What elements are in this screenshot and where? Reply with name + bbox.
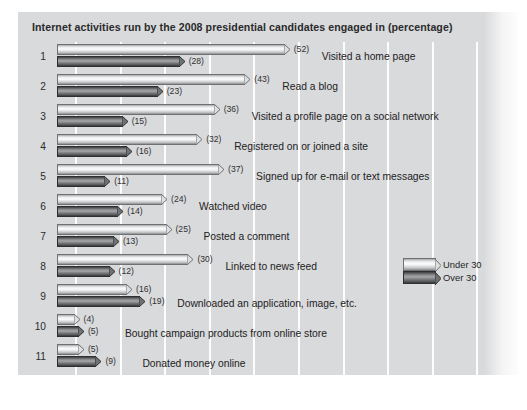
bar-end-cap	[122, 116, 128, 127]
bar-end-cap	[161, 194, 167, 205]
category-label: Downloaded an application, image, etc.	[177, 298, 357, 309]
bar-row: 9(16)(19)Downloaded an application, imag…	[18, 282, 518, 312]
row-number: 2	[18, 81, 46, 92]
bar-segment	[57, 254, 188, 265]
category-label: Registered on or joined a site	[234, 141, 368, 152]
bar-end-cap	[117, 206, 123, 217]
category-label: Signed up for e-mail or text messages	[256, 171, 429, 182]
bar-value-label: (23)	[167, 86, 182, 97]
chart-title: Internet activities run by the 2008 pres…	[32, 21, 453, 33]
legend-item: Over 30	[403, 271, 493, 284]
bar-segment	[57, 134, 197, 145]
bar-segment	[57, 194, 162, 205]
bar-segment	[57, 176, 105, 187]
bar-end-cap	[157, 86, 163, 97]
bar-value-label: (28)	[189, 56, 204, 67]
bar-value-label: (5)	[88, 344, 99, 355]
bar-segment	[57, 326, 79, 337]
bar-value-label: (19)	[149, 296, 164, 307]
bar-end-cap	[139, 296, 145, 307]
row-number: 6	[18, 201, 46, 212]
bar-end-cap	[95, 356, 101, 367]
bar-segment	[57, 206, 118, 217]
bar-segment	[57, 284, 127, 295]
row-number: 8	[18, 261, 46, 272]
row-number: 10	[18, 321, 46, 332]
bar-value-label: (25)	[176, 224, 191, 235]
bar-segment	[57, 74, 245, 85]
bar-end-cap	[244, 74, 250, 85]
bar-segment	[57, 44, 285, 55]
category-label: Read a blog	[282, 81, 338, 92]
bar-value-label: (11)	[114, 176, 129, 187]
bar-value-label: (37)	[228, 164, 243, 175]
bar-segment	[57, 116, 123, 127]
bar-end-cap	[187, 254, 193, 265]
bar-end-cap	[109, 266, 115, 277]
bar-end-cap	[126, 284, 132, 295]
bar-row: 1(52)(28)Visited a home page	[18, 42, 518, 72]
bar-segment	[57, 266, 110, 277]
chart-legend: Under 30Over 30	[403, 258, 493, 284]
category-label: Donated money online	[142, 358, 245, 369]
bar-value-label: (14)	[127, 206, 142, 217]
bar-value-label: (43)	[254, 74, 269, 85]
category-label: Visited a home page	[322, 51, 416, 62]
bar-end-cap	[214, 104, 220, 115]
legend-swatch-under-30	[403, 258, 436, 271]
bar-end-cap	[166, 224, 172, 235]
bar-end-cap	[78, 344, 84, 355]
bar-value-label: (30)	[197, 254, 212, 265]
bar-value-label: (36)	[224, 104, 239, 115]
bar-row: 10(4)(5)Bought campaign products from on…	[18, 312, 518, 342]
row-number: 5	[18, 171, 46, 182]
bar-row: 2(43)(23)Read a blog	[18, 72, 518, 102]
legend-swatch-cap	[435, 271, 441, 284]
bar-row: 4(32)(16)Registered on or joined a site	[18, 132, 518, 162]
bar-row: 3(36)(15)Visited a profile page on a soc…	[18, 102, 518, 132]
bar-value-label: (15)	[132, 116, 147, 127]
bar-segment	[57, 314, 75, 325]
row-number: 9	[18, 291, 46, 302]
row-number: 3	[18, 111, 46, 122]
bar-value-label: (32)	[206, 134, 221, 145]
bar-segment	[57, 104, 215, 115]
bar-row: 7(25)(13)Posted a comment	[18, 222, 518, 252]
row-number: 7	[18, 231, 46, 242]
bar-row: 5(37)(11)Signed up for e-mail or text me…	[18, 162, 518, 192]
legend-swatch-cap	[435, 258, 441, 271]
row-number: 4	[18, 141, 46, 152]
row-number: 11	[18, 351, 46, 362]
legend-item: Under 30	[403, 258, 493, 271]
category-label: Visited a profile page on a social netwo…	[252, 111, 439, 122]
bar-end-cap	[179, 56, 185, 67]
bar-value-label: (9)	[105, 356, 116, 367]
bar-end-cap	[113, 236, 119, 247]
plot-area: 1(52)(28)Visited a home page2(43)(23)Rea…	[18, 42, 518, 375]
bar-end-cap	[104, 176, 110, 187]
bar-value-label: (5)	[88, 326, 99, 337]
bar-segment	[57, 344, 79, 355]
bar-end-cap	[284, 44, 290, 55]
category-label: Linked to news feed	[225, 261, 317, 272]
bar-row: 11(5)(9)Donated money online	[18, 342, 518, 372]
bar-value-label: (4)	[84, 314, 95, 325]
bar-value-label: (16)	[136, 146, 151, 157]
bar-segment	[57, 146, 127, 157]
bar-segment	[57, 236, 114, 247]
bar-end-cap	[218, 164, 224, 175]
bar-segment	[57, 296, 140, 307]
bar-value-label: (24)	[171, 194, 186, 205]
bar-value-label: (12)	[119, 266, 134, 277]
category-label: Posted a comment	[204, 231, 290, 242]
bar-end-cap	[126, 146, 132, 157]
category-label: Watched video	[199, 201, 267, 212]
bar-row: 6(24)(14)Watched video	[18, 192, 518, 222]
bar-end-cap	[74, 314, 80, 325]
bar-value-label: (13)	[123, 236, 138, 247]
row-number: 1	[18, 51, 46, 62]
bar-segment	[57, 356, 96, 367]
bar-end-cap	[78, 326, 84, 337]
legend-label: Over 30	[443, 271, 476, 284]
legend-swatch-over-30	[403, 271, 436, 284]
